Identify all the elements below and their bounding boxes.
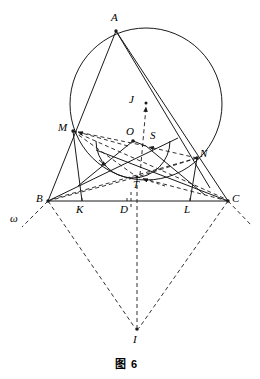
- point-dot-B: [46, 199, 49, 202]
- label-point-C: C: [232, 193, 239, 204]
- dashed-omega-ray-left: [22, 201, 48, 227]
- label-point-I: I: [133, 334, 137, 345]
- dashed-B-to-I: [48, 201, 135, 328]
- geometry-canvas: [0, 0, 260, 379]
- label-point-L: L: [184, 204, 190, 215]
- point-dot-N: [195, 156, 198, 159]
- point-dot-M: [71, 129, 74, 132]
- dashed-ray-right-of-C: [228, 201, 252, 226]
- point-dot-C: [226, 199, 229, 202]
- geometry-figure: A M N B C K D L O S T J I ω 图 6: [0, 0, 260, 379]
- point-dot-J: [145, 102, 148, 105]
- figure-caption: 图 6: [115, 355, 138, 371]
- point-dot-I: [135, 327, 139, 331]
- label-point-N: N: [200, 148, 207, 159]
- label-point-K: K: [76, 204, 83, 215]
- segment-M-to-K: [73, 131, 82, 201]
- dashed-C-to-I: [139, 201, 228, 328]
- segment-N-to-L: [190, 158, 197, 201]
- label-point-T: T: [133, 179, 139, 190]
- dashed-to-M-arrow: [78, 132, 128, 146]
- segment-C-to-M-solid: [96, 150, 228, 201]
- label-point-D: D: [120, 204, 128, 215]
- point-dot-O: [131, 139, 135, 143]
- dashed-axis-O-to-J: [140, 107, 146, 175]
- label-point-omega: ω: [10, 212, 18, 224]
- point-dot-A: [114, 29, 117, 32]
- label-point-M: M: [58, 122, 67, 133]
- label-point-J: J: [129, 94, 134, 105]
- label-point-B: B: [36, 193, 43, 204]
- dashed-B-to-T: [48, 177, 137, 201]
- label-point-S: S: [150, 130, 156, 141]
- label-point-O: O: [126, 126, 134, 137]
- label-point-A: A: [111, 12, 118, 23]
